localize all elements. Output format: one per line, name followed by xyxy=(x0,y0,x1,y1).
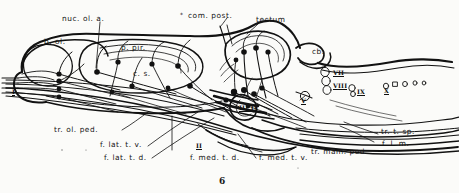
leader-f-lat-t-d xyxy=(152,118,214,158)
label-tr-t-sp: tr. t. sp. xyxy=(381,128,415,135)
nerve-label-I: I xyxy=(12,89,15,95)
leader-tr-ol-ped xyxy=(122,112,148,130)
neuron-group-tectum xyxy=(234,31,278,98)
ventral-forebrain-contour-2 xyxy=(46,96,222,107)
label-f-med-t-d: f. med. t. d. xyxy=(190,154,240,161)
label-com-post: com. post. xyxy=(188,12,232,19)
label-b-ol: b. ol. xyxy=(44,38,66,45)
pallium-arc-1 xyxy=(100,44,196,71)
label-nuc-ol-a: nuc. ol. a. xyxy=(62,15,104,22)
nerve-label-IX: IX xyxy=(357,89,365,95)
brain-schematic-drawing xyxy=(0,0,459,193)
neuron-axon xyxy=(256,48,266,98)
nerve-label-VII: VII xyxy=(333,70,344,76)
nerve-label-II: II xyxy=(196,143,202,149)
label-c-s: c. s. xyxy=(133,70,151,77)
nerve-label-V: V xyxy=(301,98,306,104)
leader-f-l-m xyxy=(340,126,374,142)
tract-tr-t-sp xyxy=(300,140,459,145)
figure-container: nuc. ol. a. b. ol. p. pir. c. s. * com. … xyxy=(0,0,459,193)
nerve-label-X: X xyxy=(384,88,389,94)
label-tectum: tectum xyxy=(256,16,286,23)
label-tr-mam-ped: tr. mam. ped. xyxy=(311,148,368,155)
bulb-fiber-fan xyxy=(18,71,58,96)
label-cb: cb. xyxy=(312,48,325,55)
label-p-pir: p. pir. xyxy=(121,44,146,51)
figure-number: 6 xyxy=(219,176,225,186)
neuron-dendrite xyxy=(256,31,264,48)
ventral-brainstem-contour-3 xyxy=(268,114,459,125)
nerve-label-III-IV: III IV xyxy=(239,105,259,111)
neuron-dendrite xyxy=(59,52,72,74)
tract-caudal-3 xyxy=(296,128,459,132)
neuron-dendrite xyxy=(178,40,190,66)
label-f-lat-t-d: f. lat. t. d. xyxy=(104,154,147,161)
label-tr-ol-ped: tr. ol. ped. xyxy=(54,126,98,133)
label-f-lat-t-v: f. lat. t. v. xyxy=(100,141,142,148)
label-f-l-m: f. l. m. xyxy=(382,140,409,147)
label-f-med-t-v: f. med. t. v. xyxy=(259,154,308,161)
olfactory-bulb-oval xyxy=(24,44,73,86)
com-post-asterisk: * xyxy=(180,11,183,18)
neuron-axon xyxy=(59,89,116,104)
medulla-fiber-hatching xyxy=(330,100,402,121)
nerve-label-VIII: VIII xyxy=(333,83,347,89)
